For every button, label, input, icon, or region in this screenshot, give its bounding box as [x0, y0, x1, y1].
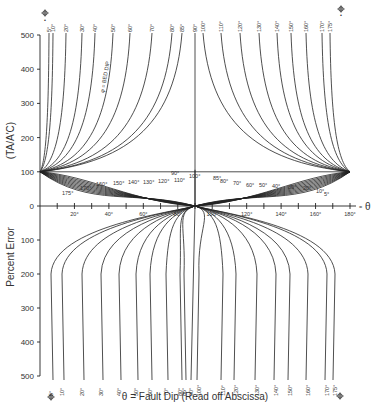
- svg-text:50°: 50°: [110, 24, 116, 32]
- upper-curve: [240, 33, 350, 172]
- svg-text:130°: 130°: [143, 179, 154, 185]
- svg-text:85°: 85°: [179, 24, 185, 32]
- svg-text:100°: 100°: [189, 173, 200, 179]
- svg-text:20°: 20°: [303, 185, 311, 191]
- svg-text:80°: 80°: [174, 211, 182, 217]
- svg-text:175°: 175°: [332, 385, 338, 396]
- svg-text:160°: 160°: [96, 181, 107, 187]
- svg-text:175°: 175°: [62, 190, 73, 196]
- svg-text:170°: 170°: [80, 185, 91, 191]
- svg-text:100°: 100°: [207, 211, 218, 217]
- upper-curve: [40, 33, 95, 172]
- svg-text:20°: 20°: [63, 24, 69, 32]
- svg-text:150°: 150°: [113, 180, 124, 186]
- svg-text:=: =: [359, 204, 362, 210]
- svg-text:40°: 40°: [272, 183, 280, 189]
- svg-text:10°: 10°: [59, 388, 65, 396]
- svg-text:120°: 120°: [158, 178, 169, 184]
- chart-container: 010020030040050010020030040050020°40°60°…: [0, 0, 373, 405]
- svg-text:180°: 180°: [344, 211, 355, 217]
- svg-text:140°: 140°: [273, 385, 279, 396]
- svg-text:130°: 130°: [256, 21, 262, 32]
- svg-text:110°: 110°: [174, 177, 185, 183]
- upper-curve: [40, 33, 53, 172]
- svg-text:θ: θ: [365, 201, 371, 212]
- svg-text:•: •: [44, 17, 46, 23]
- svg-text:100: 100: [21, 168, 35, 177]
- svg-text:70°: 70°: [233, 180, 241, 186]
- svg-text:160°: 160°: [303, 21, 309, 32]
- svg-text:40°: 40°: [92, 24, 98, 32]
- svg-text:90°: 90°: [192, 24, 198, 32]
- svg-text:10°: 10°: [50, 24, 56, 32]
- svg-text:140°: 140°: [128, 179, 139, 185]
- svg-text:30°: 30°: [79, 24, 85, 32]
- svg-text:140°: 140°: [274, 21, 280, 32]
- svg-text:60°: 60°: [139, 211, 147, 217]
- svg-text:300: 300: [21, 99, 35, 108]
- svg-text:175°: 175°: [327, 21, 333, 32]
- svg-text:θ = Fault Dip (Read off Abscis: θ = Fault Dip (Read off Abscissa): [122, 391, 268, 402]
- svg-text:160°: 160°: [310, 211, 321, 217]
- svg-text:200: 200: [21, 270, 35, 279]
- svg-text:80°: 80°: [169, 24, 175, 32]
- svg-text:Percent Error: Percent Error: [5, 227, 16, 287]
- svg-text:30°: 30°: [288, 184, 296, 190]
- svg-text:300: 300: [21, 304, 35, 313]
- svg-text:120°: 120°: [237, 21, 243, 32]
- svg-text:120°: 120°: [241, 211, 252, 217]
- svg-text:60°: 60°: [127, 24, 133, 32]
- svg-text:50°: 50°: [259, 182, 267, 188]
- svg-text:150°: 150°: [288, 21, 294, 32]
- svg-text:90°: 90°: [171, 170, 179, 176]
- svg-text:(TA/A'C): (TA/A'C): [5, 122, 16, 159]
- svg-text:140°: 140°: [275, 211, 286, 217]
- upper-curve: [330, 33, 350, 172]
- svg-text:100: 100: [21, 236, 35, 245]
- svg-text:20°: 20°: [70, 211, 78, 217]
- svg-text:•: •: [340, 12, 342, 18]
- svg-text:400: 400: [21, 338, 35, 347]
- svg-text:20°: 20°: [79, 388, 85, 396]
- svg-text:400: 400: [21, 65, 35, 74]
- svg-text:0: 0: [30, 202, 35, 211]
- svg-text:80°: 80°: [220, 178, 228, 184]
- upper-curve: [40, 33, 49, 172]
- svg-text:150°: 150°: [287, 385, 293, 396]
- svg-text:100°: 100°: [200, 21, 206, 32]
- upper-curve: [40, 33, 172, 172]
- svg-text:70°: 70°: [149, 24, 155, 32]
- svg-text:200: 200: [21, 134, 35, 143]
- chart-svg: 010020030040050010020030040050020°40°60°…: [0, 0, 373, 405]
- svg-text:5°: 5°: [324, 191, 329, 197]
- svg-text:160°: 160°: [305, 385, 311, 396]
- upper-curve: [306, 33, 350, 172]
- upper-curve: [40, 33, 152, 172]
- svg-text:170°: 170°: [324, 385, 330, 396]
- svg-text:170°: 170°: [319, 21, 325, 32]
- upper-curve: [203, 33, 350, 172]
- svg-text:40°: 40°: [105, 211, 113, 217]
- svg-text:60°: 60°: [246, 182, 254, 188]
- svg-text:30°: 30°: [98, 388, 104, 396]
- lower-curve-family: [51, 206, 335, 380]
- upper-curve: [291, 33, 350, 172]
- svg-text:500: 500: [21, 372, 35, 381]
- svg-text:110°: 110°: [218, 21, 224, 32]
- svg-text:500: 500: [21, 31, 35, 40]
